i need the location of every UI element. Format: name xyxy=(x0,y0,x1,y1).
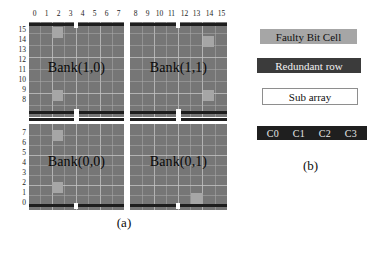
column-label: 15 xyxy=(216,9,227,18)
legend-column-c2: C2 xyxy=(319,128,331,139)
legend-column-c0: C0 xyxy=(267,128,279,139)
row-label: 3 xyxy=(12,168,26,177)
figure-root: 0 1 2 3 4 5 6 7 8 9 10 11 12 13 14 15 15… xyxy=(0,0,373,253)
bank-1-0[interactable]: Bank(1,0) xyxy=(29,22,124,117)
row-label: 7 xyxy=(12,128,26,137)
row-label: 13 xyxy=(12,45,26,54)
redundant-row-gap xyxy=(74,22,78,28)
row-label: 10 xyxy=(12,75,26,84)
panel-a-caption: (a) xyxy=(0,215,248,231)
faulty-bit-cell[interactable] xyxy=(203,90,214,101)
bank-1-1[interactable]: Bank(1,1) xyxy=(130,22,227,117)
legend-column-groups[interactable]: C0 C1 C2 C3 xyxy=(257,126,367,140)
faulty-bit-cell[interactable] xyxy=(52,90,63,101)
column-label: 2 xyxy=(53,9,64,18)
column-label: 12 xyxy=(179,9,190,18)
column-label: 1 xyxy=(41,9,52,18)
column-label: 11 xyxy=(166,9,177,18)
redundant-row-gap xyxy=(176,203,180,209)
row-label: 12 xyxy=(12,55,26,64)
legend-redundant-row[interactable]: Redundant row xyxy=(257,58,361,73)
row-label: 1 xyxy=(12,188,26,197)
faulty-bit-cell[interactable] xyxy=(52,27,63,38)
legend-faulty-bit-cell[interactable]: Faulty Bit Cell xyxy=(260,29,357,44)
legend-column-c1: C1 xyxy=(293,128,305,139)
column-label: 8 xyxy=(130,9,141,18)
bank-label: Bank(1,0) xyxy=(29,60,124,76)
column-label: 13 xyxy=(191,9,202,18)
redundant-row-gap xyxy=(176,109,181,121)
faulty-bit-cell[interactable] xyxy=(203,36,214,47)
bank-column-separator xyxy=(124,22,130,211)
panel-b-caption: (b) xyxy=(248,158,373,174)
row-label: 9 xyxy=(12,85,26,94)
redundant-row-gap xyxy=(176,22,180,28)
row-label: 4 xyxy=(12,158,26,167)
column-label: 14 xyxy=(204,9,215,18)
row-label: 6 xyxy=(12,138,26,147)
bank-label: Bank(0,0) xyxy=(29,154,124,170)
bank-label: Bank(1,1) xyxy=(130,60,227,76)
bank-0-0[interactable]: Bank(0,0) xyxy=(29,124,124,210)
column-label: 7 xyxy=(113,9,124,18)
column-label: 4 xyxy=(77,9,88,18)
row-label: 14 xyxy=(12,35,26,44)
faulty-bit-cell[interactable] xyxy=(52,182,63,193)
column-label: 0 xyxy=(29,9,40,18)
faulty-bit-cell[interactable] xyxy=(52,130,63,141)
column-label: 5 xyxy=(89,9,100,18)
column-label: 3 xyxy=(65,9,76,18)
row-label: 0 xyxy=(12,198,26,207)
row-label: 15 xyxy=(12,25,26,34)
row-label: 8 xyxy=(12,95,26,104)
faulty-bit-cell[interactable] xyxy=(191,193,203,204)
column-label: 9 xyxy=(142,9,153,18)
column-label: 10 xyxy=(154,9,165,18)
panel-a-memory-map: 0 1 2 3 4 5 6 7 8 9 10 11 12 13 14 15 15… xyxy=(0,0,248,253)
row-label: 11 xyxy=(12,65,26,74)
row-label: 2 xyxy=(12,178,26,187)
row-label: 5 xyxy=(12,148,26,157)
redundant-row-gap xyxy=(74,109,79,121)
column-label: 6 xyxy=(101,9,112,18)
redundant-row-gap xyxy=(74,203,78,209)
bank-0-1[interactable]: Bank(0,1) xyxy=(130,124,227,210)
legend-column-c3: C3 xyxy=(345,128,357,139)
bank-label: Bank(0,1) xyxy=(130,154,227,170)
legend-sub-array[interactable]: Sub array xyxy=(262,88,358,105)
panel-b-legend: Faulty Bit Cell Redundant row Sub array … xyxy=(248,0,373,253)
